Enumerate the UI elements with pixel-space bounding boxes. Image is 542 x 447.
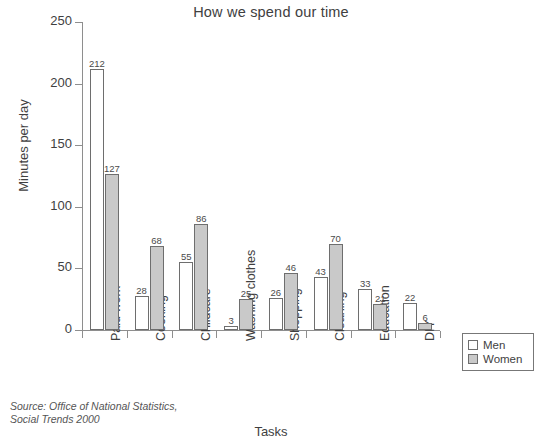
x-tick-mark	[306, 331, 307, 338]
bar-women-education	[373, 304, 387, 330]
chart-figure: How we spend our time Minutes per day 05…	[0, 0, 542, 447]
y-tick-label-wrap: 150	[28, 145, 72, 146]
bar-women-paid-work	[105, 174, 119, 330]
x-tick-mark	[351, 331, 352, 338]
legend-label-men: Men	[483, 339, 505, 351]
y-tick-label-wrap: 50	[28, 268, 72, 269]
legend-item-women[interactable]: Women	[468, 352, 528, 366]
y-tick-label: 200	[32, 75, 72, 90]
legend-label-women: Women	[483, 353, 522, 365]
source-note: Source: Office of National Statistics, S…	[10, 400, 178, 425]
x-tick-mark	[172, 331, 173, 338]
bar-value-label: 22	[390, 292, 430, 303]
y-tick-label: 250	[32, 13, 72, 28]
gray-square-icon	[468, 354, 478, 364]
x-tick-mark	[261, 331, 262, 338]
y-tick-mark	[75, 207, 82, 208]
y-tick-label-wrap: 0	[28, 330, 72, 331]
bar-value-label: 68	[137, 235, 177, 246]
source-line-2: Social Trends 2000	[10, 413, 178, 426]
bar-value-label: 33	[345, 278, 385, 289]
y-tick-label-wrap: 250	[28, 22, 72, 23]
y-tick-mark	[75, 84, 82, 85]
bar-value-label: 127	[92, 163, 132, 174]
bar-men-washing-clothes	[224, 326, 238, 330]
y-tick-label: 150	[32, 136, 72, 151]
bar-women-washing-clothes	[239, 299, 253, 330]
bar-men-childcare	[179, 262, 193, 330]
bar-men-cleaning	[314, 277, 328, 330]
bar-value-label: 212	[77, 58, 117, 69]
y-tick-label: 50	[32, 259, 72, 274]
chart-title: How we spend our time	[0, 4, 542, 20]
source-line-1: Source: Office of National Statistics,	[10, 400, 178, 412]
bar-men-paid-work	[90, 69, 104, 330]
bar-men-shopping	[269, 298, 283, 330]
x-tick-mark	[440, 331, 441, 338]
bar-men-cooking	[135, 296, 149, 330]
x-tick-mark	[216, 331, 217, 338]
bar-women-diy	[418, 323, 432, 330]
y-tick-label-wrap: 100	[28, 207, 72, 208]
bar-women-cooking	[150, 246, 164, 330]
chart-legend: Men Women	[462, 333, 534, 371]
bar-value-label: 70	[316, 233, 356, 244]
white-square-icon	[468, 340, 478, 350]
y-tick-mark	[75, 22, 82, 23]
y-tick-mark	[75, 268, 82, 269]
legend-item-men[interactable]: Men	[468, 338, 528, 352]
bar-women-shopping	[284, 273, 298, 330]
x-axis-title: Tasks	[0, 424, 542, 439]
y-tick-label-wrap: 200	[28, 84, 72, 85]
y-tick-mark	[75, 330, 82, 331]
bar-women-cleaning	[329, 244, 343, 330]
y-tick-mark	[75, 145, 82, 146]
x-tick-mark	[82, 331, 83, 338]
y-tick-label: 100	[32, 198, 72, 213]
y-tick-label: 0	[32, 321, 72, 336]
bar-women-childcare	[194, 224, 208, 330]
x-tick-mark	[395, 331, 396, 338]
bar-value-label: 6	[405, 312, 445, 323]
x-tick-mark	[127, 331, 128, 338]
bar-value-label: 86	[181, 213, 221, 224]
